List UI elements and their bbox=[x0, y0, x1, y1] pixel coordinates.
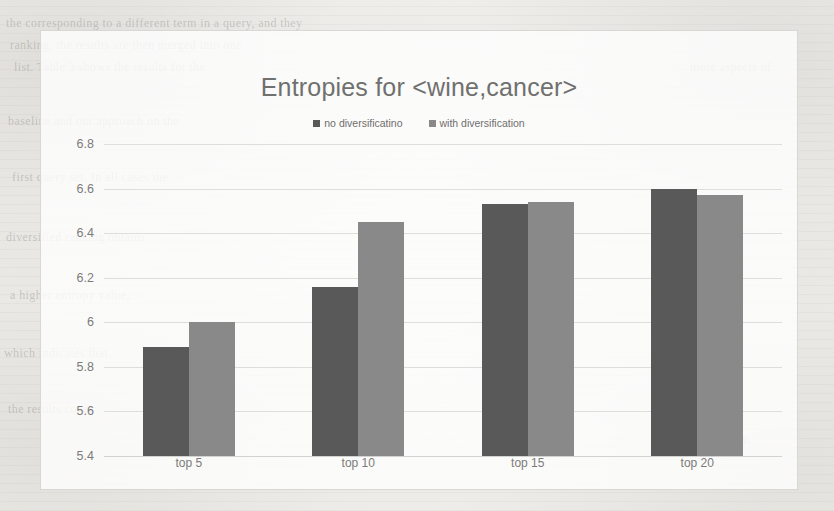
bar-group-top-20 bbox=[613, 144, 783, 456]
bar-top-15-series-1[interactable] bbox=[528, 202, 574, 456]
x-axis-label: top 5 bbox=[104, 456, 274, 470]
y-axis-tick-label: 6 bbox=[87, 315, 104, 329]
y-axis-tick-label: 6.2 bbox=[77, 270, 104, 284]
bar-group-top-10 bbox=[274, 144, 444, 456]
legend-swatch-icon bbox=[313, 120, 320, 127]
legend-label: with diversification bbox=[440, 117, 525, 129]
bar-group-top-15 bbox=[443, 144, 613, 456]
x-axis-label: top 15 bbox=[443, 456, 613, 470]
bar-top-10-series-1[interactable] bbox=[358, 222, 404, 456]
y-axis-tick-label: 5.6 bbox=[77, 404, 104, 418]
bar-series-group bbox=[104, 144, 782, 456]
bar-top-15-series-0[interactable] bbox=[482, 204, 528, 456]
chart-legend: no diversificatino with diversification bbox=[41, 117, 797, 129]
y-axis-tick-label: 6.4 bbox=[77, 226, 104, 240]
x-axis-label: top 10 bbox=[274, 456, 444, 470]
chart-title: Entropies for <wine,cancer> bbox=[41, 73, 797, 102]
legend-item-series-1[interactable]: with diversification bbox=[429, 117, 525, 129]
x-axis-label: top 20 bbox=[613, 456, 783, 470]
legend-label: no diversificatino bbox=[324, 117, 402, 129]
y-axis-tick-label: 6.6 bbox=[77, 181, 104, 195]
legend-item-series-0[interactable]: no diversificatino bbox=[313, 117, 402, 129]
plot-area: 6.86.66.46.265.85.65.4 bbox=[104, 144, 782, 456]
legend-swatch-icon bbox=[429, 120, 436, 127]
y-axis-tick-label: 5.4 bbox=[77, 449, 104, 463]
bar-top-10-series-0[interactable] bbox=[312, 287, 358, 456]
x-axis-labels: top 5top 10top 15top 20 bbox=[104, 456, 782, 470]
y-axis-tick-label: 5.8 bbox=[77, 360, 104, 374]
bar-group-top-5 bbox=[104, 144, 274, 456]
y-axis-tick-label: 6.8 bbox=[77, 137, 104, 151]
bar-top-5-series-1[interactable] bbox=[189, 322, 235, 456]
bar-top-5-series-0[interactable] bbox=[143, 347, 189, 456]
bar-top-20-series-0[interactable] bbox=[651, 189, 697, 456]
chart-container: Entropies for <wine,cancer> no diversifi… bbox=[40, 30, 798, 490]
bar-top-20-series-1[interactable] bbox=[697, 195, 743, 456]
